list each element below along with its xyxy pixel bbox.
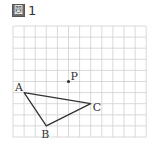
point-label-b: B: [41, 128, 49, 141]
grid-figure: ABCP: [0, 0, 156, 148]
point-label-c: C: [93, 101, 101, 114]
point-label-p: P: [71, 70, 79, 83]
point-label-a: A: [14, 81, 24, 94]
